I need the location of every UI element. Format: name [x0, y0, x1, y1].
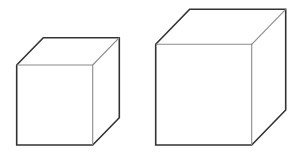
cube-diagram — [0, 0, 299, 159]
cubes-svg — [0, 0, 299, 159]
small-cube — [17, 38, 120, 145]
large-cube — [156, 9, 286, 145]
